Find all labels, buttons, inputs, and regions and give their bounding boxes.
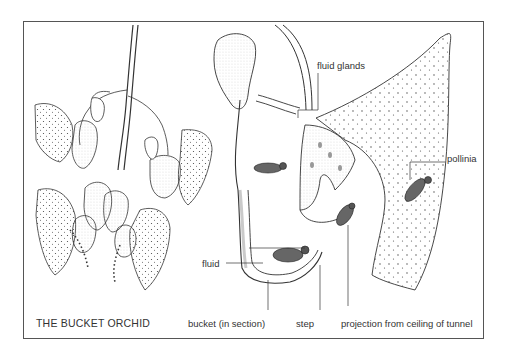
label-step: step [296, 319, 314, 329]
label-fluid: fluid [202, 259, 219, 269]
label-projection: projection from ceiling of tunnel [341, 319, 473, 329]
bucket-orchid-illustration [0, 0, 506, 354]
orchid-cluster-drawing [35, 25, 212, 290]
figure-title: THE BUCKET ORCHID [36, 318, 150, 329]
label-bucket: bucket (in section) [188, 319, 265, 329]
label-pollinia: pollinia [447, 154, 477, 164]
label-fluid-glands: fluid glands [317, 61, 365, 71]
